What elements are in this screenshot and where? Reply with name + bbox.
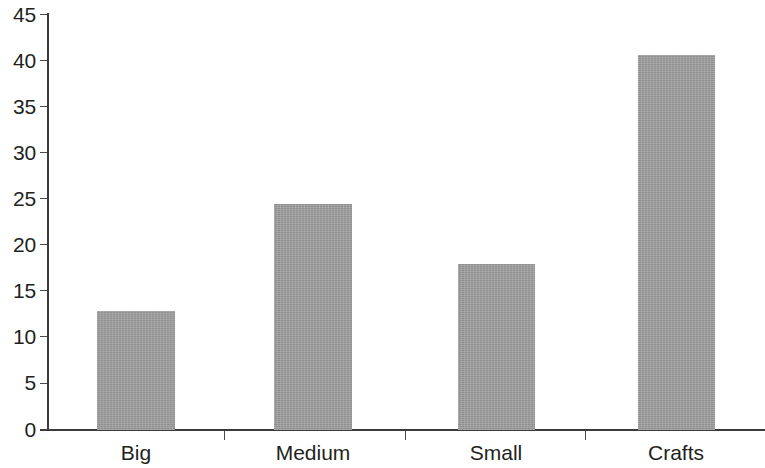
bar-small[interactable]: [458, 264, 535, 430]
bar-medium[interactable]: [274, 204, 352, 430]
y-axis-tick-label-45: 45: [2, 4, 36, 25]
y-axis-tick-label-0: 0: [2, 419, 36, 440]
y-axis-tick-label-20: 20: [2, 234, 36, 255]
plot-area: [48, 14, 765, 430]
x-axis-tick-1: [224, 431, 225, 440]
x-axis-tick-2: [405, 431, 406, 440]
x-axis-label-medium: Medium: [276, 440, 351, 466]
y-axis-tick-label-5: 5: [2, 372, 36, 393]
y-axis-labels: 45 40 35 30 25 20 15 10 5 0: [0, 0, 36, 468]
x-axis-label-small: Small: [470, 440, 523, 466]
y-axis-tick-label-10: 10: [2, 326, 36, 347]
y-axis-tick-label-35: 35: [2, 96, 36, 117]
x-axis-label-crafts: Crafts: [648, 440, 704, 466]
y-axis-tick-label-40: 40: [2, 50, 36, 71]
x-axis-label-big: Big: [121, 440, 151, 466]
bar-crafts[interactable]: [638, 55, 715, 430]
y-axis-tick-label-25: 25: [2, 188, 36, 209]
y-axis-tick-label-15: 15: [2, 280, 36, 301]
bar-big[interactable]: [97, 311, 175, 430]
x-axis-tick-3: [585, 431, 586, 440]
y-axis-tick-label-30: 30: [2, 142, 36, 163]
bar-chart: 45 40 35 30 25 20 15 10 5 0 Big Medium S…: [0, 0, 765, 468]
